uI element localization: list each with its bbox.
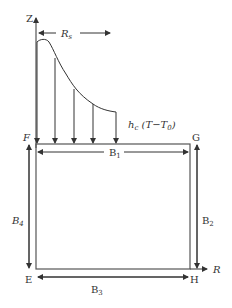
diagram-canvas: Z Rs hc (T−T0) F G E H B1 B4 B2 (0, 0, 232, 308)
heat-flux-arrows (37, 42, 116, 143)
corner-label-g: G (192, 132, 200, 143)
corner-label-e: E (25, 274, 32, 285)
domain-rectangle (36, 144, 190, 269)
boundary-label-b3: B3 (91, 284, 103, 297)
r-axis-label: R (212, 264, 221, 275)
corner-label-f: F (22, 132, 31, 143)
heat-flux-label: hc (T−T0) (128, 119, 176, 132)
corner-label-h: H (190, 274, 199, 285)
boundary-label-b2: B2 (202, 215, 214, 228)
rs-label: Rs (60, 28, 73, 41)
boundary-label-b1: B1 (109, 147, 121, 160)
heat-flux-profile-curve (37, 39, 116, 112)
z-axis-label: Z (26, 13, 33, 24)
